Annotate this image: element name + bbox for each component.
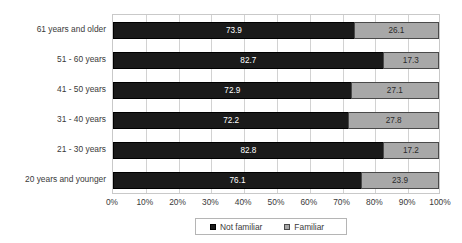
x-tick-label: 0% (106, 197, 118, 207)
bar-row: 76.123.9 (113, 172, 439, 189)
plot-area: 76.123.982.817.272.227.872.927.182.717.3… (112, 14, 440, 194)
bar-value-label: 27.8 (386, 116, 402, 125)
category-axis: 20 years and younger21 - 30 years31 - 40… (0, 14, 106, 194)
chart-legend: Not familiarFamiliar (195, 218, 347, 235)
category-label: 61 years and older (0, 25, 106, 34)
x-tick-label: 90% (399, 197, 416, 207)
gridline (343, 15, 344, 193)
bar-segment-not-familiar: 72.9 (113, 82, 351, 99)
bar-value-label: 76.1 (230, 176, 246, 185)
bar-value-label: 82.7 (240, 56, 256, 65)
legend-item: Familiar (284, 222, 324, 232)
x-axis-ticks: 0%10%20%30%40%50%60%70%80%90%100% (112, 197, 440, 211)
bar-value-label: 82.8 (240, 146, 256, 155)
x-tick-label: 20% (169, 197, 186, 207)
gridline (277, 15, 278, 193)
bar-segment-familiar: 17.3 (383, 52, 439, 69)
bar-value-label: 17.3 (403, 56, 419, 65)
x-tick-label: 70% (333, 197, 350, 207)
gridline (244, 15, 245, 193)
legend-label: Not familiar (220, 222, 262, 232)
gridline (211, 15, 212, 193)
category-label: 41 - 50 years (0, 85, 106, 94)
gridline (179, 15, 180, 193)
bar-row: 73.926.1 (113, 22, 439, 39)
bar-segment-not-familiar: 76.1 (113, 172, 361, 189)
bar-row: 72.227.8 (113, 112, 439, 129)
bar-segment-familiar: 27.8 (348, 112, 439, 129)
bar-segment-not-familiar: 82.7 (113, 52, 383, 69)
bar-segment-familiar: 17.2 (383, 142, 439, 159)
bar-row: 72.927.1 (113, 82, 439, 99)
bar-value-label: 26.1 (388, 26, 404, 35)
bar-value-label: 72.2 (223, 116, 239, 125)
bar-value-label: 27.1 (387, 86, 403, 95)
category-label: 51 - 60 years (0, 55, 106, 64)
legend-swatch-not-familiar (210, 224, 216, 230)
bar-value-label: 73.9 (226, 26, 242, 35)
gridline (408, 15, 409, 193)
bar-value-label: 23.9 (392, 176, 408, 185)
bar-value-label: 72.9 (224, 86, 240, 95)
x-tick-label: 100% (429, 197, 450, 207)
category-label: 20 years and younger (0, 175, 106, 184)
x-tick-label: 10% (136, 197, 153, 207)
gridline (375, 15, 376, 193)
x-tick-label: 30% (202, 197, 219, 207)
gridline (310, 15, 311, 193)
stacked-bar-chart: 20 years and younger21 - 30 years31 - 40… (0, 0, 462, 243)
bar-segment-not-familiar: 73.9 (113, 22, 354, 39)
bar-segment-not-familiar: 72.2 (113, 112, 348, 129)
bar-row: 82.717.3 (113, 52, 439, 69)
bar-segment-familiar: 26.1 (354, 22, 439, 39)
legend-item: Not familiar (210, 222, 262, 232)
category-label: 21 - 30 years (0, 145, 106, 154)
legend-label: Familiar (294, 222, 324, 232)
bar-segment-not-familiar: 82.8 (113, 142, 383, 159)
bar-segment-familiar: 23.9 (361, 172, 439, 189)
x-tick-label: 60% (300, 197, 317, 207)
bar-segment-familiar: 27.1 (351, 82, 439, 99)
legend-swatch-familiar (284, 224, 290, 230)
x-tick-label: 80% (366, 197, 383, 207)
bar-row: 82.817.2 (113, 142, 439, 159)
x-tick-label: 50% (268, 197, 285, 207)
x-tick-label: 40% (235, 197, 252, 207)
category-label: 31 - 40 years (0, 115, 106, 124)
bar-value-label: 17.2 (403, 146, 419, 155)
gridline (146, 15, 147, 193)
